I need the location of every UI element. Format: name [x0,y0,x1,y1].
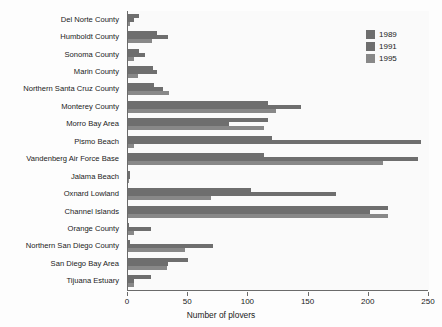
y-axis-label: Humboldt County [60,33,119,41]
x-tick-label: 100 [241,297,254,306]
y-axis-label: Monterey County [61,103,119,111]
y-axis-label: Morro Bay Area [66,120,119,128]
y-axis-label: Marin County [74,68,119,76]
legend-item[interactable]: 1991 [366,41,436,52]
y-axis-label: Orange County [68,225,120,233]
legend-label: 1989 [379,31,397,39]
legend-item[interactable]: 1995 [366,53,436,64]
x-tick [368,292,369,296]
x-tick-label: 50 [183,297,192,306]
bar [128,39,152,43]
legend-swatch [366,54,375,63]
bar [128,179,129,183]
x-tick [187,292,188,296]
x-tick [308,292,309,296]
x-tick [428,292,429,296]
x-axis-line [127,290,428,291]
x-axis-title: Number of plovers [0,310,442,320]
y-axis-label: Oxnard Lowland [64,190,119,198]
y-axis-label: Northern Santa Cruz County [23,85,119,93]
bar [128,161,383,165]
bar [128,57,134,61]
x-tick-label: 150 [301,297,314,306]
y-axis-label: Sonoma County [65,51,119,59]
bar [128,126,264,130]
y-axis-label: Northern San Diego County [26,242,119,250]
legend: 198919911995 [366,29,436,65]
legend-label: 1995 [379,55,397,63]
x-tick-label: 0 [125,297,129,306]
y-axis-label: Pismo Beach [74,138,119,146]
y-axis-label: Del Norte County [61,16,119,24]
y-axis-label: Tijuana Estuary [67,277,119,285]
bar [128,196,211,200]
bar [128,248,185,252]
legend-item[interactable]: 1989 [366,29,436,40]
y-axis-label: San Diego Bay Area [51,260,119,268]
y-axis-label: Vandenberg Air Force Base [26,155,119,163]
bar [128,283,134,287]
bar [128,231,134,235]
x-tick-label: 200 [361,297,374,306]
plover-bar-chart: Del Norte CountyHumboldt CountySonoma Co… [0,0,442,327]
legend-swatch [366,30,375,39]
y-axis-labels: Del Norte CountyHumboldt CountySonoma Co… [0,0,123,279]
bar [128,91,169,95]
y-axis-label: Jalama Beach [71,173,119,181]
bar [128,109,276,113]
bar [128,74,138,78]
x-tick-label: 250 [421,297,434,306]
bar [128,266,167,270]
bar [128,214,388,218]
bar [128,22,130,26]
legend-label: 1991 [379,43,397,51]
bar [128,140,421,144]
legend-swatch [366,42,375,51]
bar [128,144,134,148]
x-tick [247,292,248,296]
x-tick [127,292,128,296]
y-axis-label: Channel Islands [65,208,119,216]
